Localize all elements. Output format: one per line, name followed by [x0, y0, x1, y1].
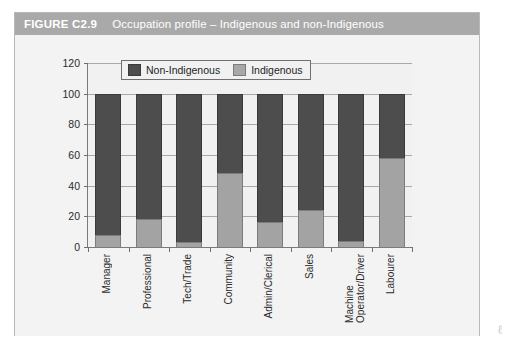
y-tick-mark-60: [84, 155, 88, 156]
y-tick-mark-20: [84, 216, 88, 217]
bar-segment-indigenous: [217, 173, 243, 247]
figure-caption: Occupation profile – Indigenous and non-…: [112, 18, 384, 30]
x-tick-mark: [412, 247, 413, 252]
legend-label-non-indigenous: Non-Indigenous: [146, 64, 220, 76]
y-tick-mark-100: [84, 94, 88, 95]
bar-column: [176, 94, 202, 247]
y-tick-label-40: 40: [68, 180, 80, 192]
bar-segment-non-indigenous: [136, 94, 162, 220]
legend-entry-non-indigenous: Non-Indigenous: [128, 64, 220, 76]
legend-label-indigenous: Indigenous: [251, 64, 302, 76]
legend-swatch-indigenous-icon: [233, 64, 246, 76]
bar-segment-non-indigenous: [298, 94, 324, 211]
legend-swatch-non-indigenous-icon: [128, 64, 141, 76]
y-tick-mark-40: [84, 186, 88, 187]
figure-title-bar: FIGURE C2.9 Occupation profile – Indigen…: [15, 13, 479, 35]
x-axis-label: Professional: [142, 254, 153, 309]
bar-column: [379, 94, 405, 247]
chart-body: 120100806040200 Non-Indigenous Indigenou…: [15, 35, 479, 336]
y-tick-mark-120: [84, 63, 88, 64]
y-tick-label-60: 60: [68, 149, 80, 161]
bar-segment-indigenous: [95, 235, 121, 247]
y-tick-mark-80: [84, 124, 88, 125]
x-axis-label: Labourer: [385, 254, 396, 294]
bar-column: [95, 94, 121, 247]
bar-segment-indigenous: [298, 210, 324, 247]
x-axis-label: Admin/Clerical: [263, 254, 274, 318]
bar-column: [136, 94, 162, 247]
y-tick-label-80: 80: [68, 118, 80, 130]
x-axis-label: Community: [223, 254, 234, 305]
bar-segment-indigenous: [338, 241, 364, 247]
bar-column: [257, 94, 283, 247]
legend-entry-indigenous: Indigenous: [233, 64, 302, 76]
bar-column: [338, 94, 364, 247]
bar-column: [298, 94, 324, 247]
x-axis-category-labels: ManagerProfessionalTech/TradeCommunityAd…: [87, 250, 411, 336]
y-tick-label-120: 120: [62, 57, 80, 69]
bar-segment-non-indigenous: [257, 94, 283, 223]
figure-number: FIGURE C2.9: [24, 18, 97, 30]
y-tick-label-100: 100: [62, 88, 80, 100]
bar-column: [217, 94, 243, 247]
bar-segment-indigenous: [379, 158, 405, 247]
x-axis-label: Machine Operator/Driver: [344, 254, 366, 323]
chart-legend: Non-Indigenous Indigenous: [121, 60, 311, 80]
x-axis-label: Tech/Trade: [182, 254, 193, 304]
y-tick-label-0: 0: [74, 241, 80, 253]
bar-segment-indigenous: [257, 222, 283, 247]
y-tick-label-20: 20: [68, 210, 80, 222]
plot-area: 120100806040200: [87, 63, 412, 248]
figure-container: FIGURE C2.9 Occupation profile – Indigen…: [14, 12, 480, 336]
bar-segment-non-indigenous: [95, 94, 121, 235]
page-corner-mark: ℓ: [497, 322, 511, 338]
bar-segment-indigenous: [176, 242, 202, 247]
x-axis-label: Manager: [101, 254, 112, 293]
bar-segment-non-indigenous: [338, 94, 364, 241]
bar-segment-non-indigenous: [379, 94, 405, 158]
bar-segment-non-indigenous: [217, 94, 243, 174]
bar-segment-non-indigenous: [176, 94, 202, 243]
x-axis-label: Sales: [304, 254, 315, 279]
bar-segment-indigenous: [136, 219, 162, 247]
